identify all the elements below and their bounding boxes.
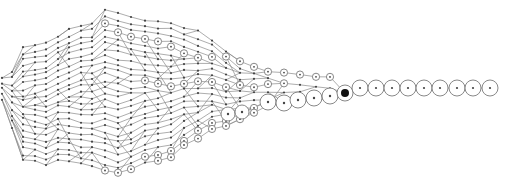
node-dot	[68, 100, 70, 102]
node-dot	[225, 67, 227, 69]
edge-line	[23, 142, 35, 144]
node-dot	[22, 89, 24, 91]
node-dot	[130, 23, 132, 25]
node-dot	[211, 81, 213, 83]
edge-line	[58, 29, 69, 37]
node-dot	[91, 114, 93, 116]
node-dot	[183, 58, 185, 60]
node-dot	[267, 71, 269, 73]
node-dot	[91, 53, 93, 55]
node-dot	[45, 48, 47, 50]
node-dot	[57, 51, 59, 53]
node-dot	[45, 55, 47, 57]
node-dot	[34, 138, 36, 140]
node-dot	[45, 60, 47, 62]
node-dot	[239, 84, 241, 86]
lineage-diagram	[0, 0, 521, 183]
edge-line	[81, 123, 92, 124]
edge-line	[118, 78, 131, 82]
node-dot	[197, 92, 199, 94]
edge-line	[198, 46, 212, 51]
node-dot	[253, 72, 255, 74]
node-dot	[104, 124, 106, 126]
node-dot	[22, 70, 24, 72]
node-dot	[157, 133, 159, 135]
node-dot	[117, 39, 119, 41]
node-dot	[183, 63, 185, 65]
node-dot	[315, 86, 317, 88]
edge-line	[158, 124, 171, 128]
edge-line	[35, 115, 46, 118]
node-dot	[267, 91, 269, 93]
node-dot	[91, 146, 93, 148]
node-dot	[144, 25, 146, 27]
node-dot	[130, 74, 132, 76]
edge-line	[69, 126, 81, 128]
node-dot	[267, 101, 269, 103]
edge-line	[23, 70, 35, 72]
node-dot	[45, 141, 47, 143]
edge-line	[145, 70, 158, 72]
node-dot	[211, 87, 213, 89]
node-dot	[170, 100, 172, 102]
node-dot	[68, 138, 70, 140]
node-dot	[183, 77, 185, 79]
node-dot	[183, 52, 185, 54]
edge-line	[46, 65, 58, 72]
edge-line	[35, 122, 46, 125]
node-dot	[22, 141, 24, 143]
edge-line	[92, 142, 105, 143]
node-dot	[34, 133, 36, 135]
edge-line	[118, 65, 131, 69]
node-dot	[104, 66, 106, 68]
edge-line	[81, 54, 92, 57]
node-dot	[22, 113, 24, 115]
node-dot	[22, 136, 24, 138]
edge-line	[69, 119, 81, 123]
node-dot	[170, 72, 172, 74]
node-dot	[239, 68, 241, 70]
edge-line	[69, 26, 81, 29]
edge-line	[145, 93, 158, 110]
node-dot	[170, 35, 172, 37]
node-dot	[34, 142, 36, 144]
edge-line	[158, 65, 171, 66]
node-dot	[104, 98, 106, 100]
node-dot	[117, 77, 119, 79]
node-dot	[183, 120, 185, 122]
node-dot	[197, 105, 199, 107]
node-dot	[239, 60, 241, 62]
edge-line	[105, 157, 118, 162]
edge-line	[46, 77, 58, 84]
node-dot	[68, 96, 70, 98]
edge-line	[92, 134, 105, 138]
node-dot	[211, 116, 213, 118]
node-dot	[197, 125, 199, 127]
edge-line	[92, 94, 105, 99]
edge-line	[92, 125, 105, 129]
node-dot	[104, 29, 106, 31]
hub-core	[341, 89, 349, 97]
edge-line	[69, 43, 81, 47]
node-dot	[253, 112, 255, 114]
node-dot	[211, 110, 213, 112]
edge-line	[23, 107, 35, 110]
node-dot	[57, 89, 59, 91]
edge-line	[240, 92, 254, 98]
edge-line	[58, 105, 69, 106]
node-dot	[34, 126, 36, 128]
node-dot	[57, 76, 59, 78]
node-dot	[104, 72, 106, 74]
node-dot	[34, 69, 36, 71]
node-dot	[80, 79, 82, 81]
edge-line	[69, 38, 81, 44]
node-dot	[130, 68, 132, 70]
edge-line	[105, 107, 118, 110]
edge-line	[131, 24, 145, 26]
node-dot	[45, 134, 47, 136]
edge-line	[131, 69, 145, 70]
node-dot	[117, 59, 119, 61]
edge-line	[145, 65, 158, 66]
edge-line	[145, 116, 158, 118]
node-dot	[68, 132, 70, 134]
